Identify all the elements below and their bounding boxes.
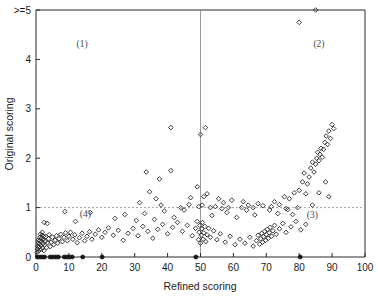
x-tick-label: 70: [261, 262, 273, 273]
data-point: [100, 255, 104, 259]
y-tick-label: 1: [25, 202, 31, 213]
x-axis-title: Refined scoring: [164, 280, 237, 292]
quadrant-label-upper-right: (2): [313, 39, 324, 50]
x-tick-label: 60: [228, 262, 240, 273]
data-point: [81, 255, 85, 259]
data-point: [42, 255, 46, 259]
data-point: [70, 255, 74, 259]
x-tick-label: 30: [129, 262, 141, 273]
x-tick-label: 0: [33, 262, 39, 273]
x-tick-label: 50: [195, 262, 207, 273]
data-point: [56, 255, 60, 259]
x-tick-label: 100: [357, 262, 374, 273]
data-point: [298, 255, 302, 259]
x-tick-label: 80: [294, 262, 306, 273]
quadrant-label-upper-left: (1): [77, 39, 88, 50]
y-tick-label: 0: [25, 252, 31, 263]
y-tick-label: 4: [25, 54, 31, 65]
x-tick-label: 90: [327, 262, 339, 273]
chart-canvas: 0102030405060708090100 01234>=5 (1)(2)(3…: [0, 0, 378, 296]
y-axis-title: Original scoring: [3, 97, 15, 170]
x-tick-label: 40: [162, 262, 174, 273]
x-tick-label: 10: [63, 262, 75, 273]
y-tick-label: >=5: [14, 5, 32, 16]
y-tick-label: 2: [25, 153, 31, 164]
quadrant-label-lower-right: (3): [307, 210, 318, 221]
x-tick-label: 20: [96, 262, 108, 273]
y-tick-label: 3: [25, 103, 31, 114]
data-point: [194, 255, 198, 259]
scatter-plot-figure: 0102030405060708090100 01234>=5 (1)(2)(3…: [0, 0, 378, 296]
quadrant-label-lower-left: (4): [80, 209, 91, 220]
